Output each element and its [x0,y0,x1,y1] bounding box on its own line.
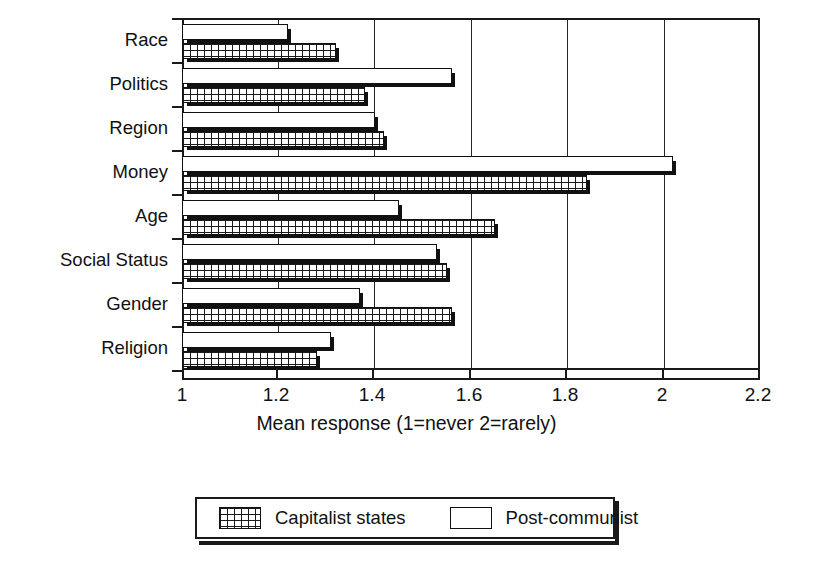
y-axis-label-money: Money [112,162,168,182]
x-axis-tick [182,368,184,380]
x-axis-tick [758,368,760,380]
x-axis-tick [662,368,664,380]
bar-capitalist-religion [182,351,317,367]
x-axis-tick [565,368,567,380]
legend-item-capitalist-states: Capitalist states [219,507,406,529]
x-axis-ticklabel-1-2: 1.2 [263,384,289,406]
y-axis-label-region: Region [109,118,168,138]
x-axis-ticklabel-1-8: 1.8 [552,384,578,406]
legend-label-post-communist: Post-communist [506,507,639,529]
open-swatch-icon [450,507,492,529]
x-axis-ticklabel-1: 1 [177,384,188,406]
y-axis-label-religion: Religion [101,338,168,358]
bar-capitalist-money [182,175,587,191]
legend-label-capitalist-states: Capitalist states [275,507,406,529]
x-axis-ticklabel-2-2: 2.2 [745,384,771,406]
x-axis-ticklabel-1-4: 1.4 [359,384,385,406]
bar-post-communist-social-status [182,244,437,260]
hatched-swatch-icon [219,507,261,529]
bar-capitalist-politics [182,87,365,103]
y-axis-label-age: Age [135,206,168,226]
y-axis-category-labels: Race Politics Region Money Age Social St… [0,18,176,370]
x-axis-ticklabel-2: 2 [657,384,668,406]
bar-capitalist-social-status [182,263,447,279]
bar-capitalist-region [182,131,384,147]
y-axis-label-race: Race [125,30,168,50]
bar-capitalist-race [182,43,336,59]
bar-post-communist-money [182,156,673,172]
x-axis-tick [372,368,374,380]
bar-series-group [182,18,760,370]
bar-capitalist-age [182,219,495,235]
bar-post-communist-age [182,200,399,216]
x-axis-ticklabel-1-6: 1.6 [456,384,482,406]
y-axis-label-gender: Gender [106,294,168,314]
bar-post-communist-region [182,112,375,128]
x-axis-tick [276,368,278,380]
bar-post-communist-politics [182,68,452,84]
y-axis-label-politics: Politics [109,74,168,94]
horizontal-bar-chart: Race Politics Region Money Age Social St… [0,0,813,569]
bar-post-communist-race [182,24,288,40]
x-axis [182,378,760,380]
x-axis-title: Mean response (1=never 2=rarely) [0,412,813,435]
bar-capitalist-gender [182,307,452,323]
legend-item-post-communist: Post-communist [450,507,639,529]
legend-shadow [199,541,619,545]
chart-legend: Capitalist states Post-communist [195,497,615,539]
y-axis-label-social-status: Social Status [60,250,168,270]
x-axis-tick [469,368,471,380]
bar-post-communist-gender [182,288,360,304]
bar-post-communist-religion [182,332,331,348]
